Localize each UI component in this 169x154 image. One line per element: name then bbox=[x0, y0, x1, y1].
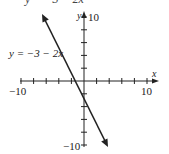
coordinate-graph: y = −3 − 2x y 10 −10 x −10 10 y = −3 − 2… bbox=[0, 0, 169, 154]
x-max-label: 10 bbox=[141, 86, 152, 97]
y-min-label: −10 bbox=[63, 141, 80, 152]
y-axis-label: y bbox=[77, 11, 81, 21]
x-axis bbox=[20, 78, 159, 84]
x-min-label: −10 bbox=[9, 86, 26, 97]
graph-canvas bbox=[0, 0, 169, 154]
line-equation-label: y = −3 − 2x bbox=[9, 48, 63, 59]
x-axis-label: x bbox=[152, 69, 156, 79]
y-axis bbox=[81, 11, 87, 147]
header-equation-fragment: y = −3 − 2x bbox=[25, 0, 84, 5]
x-axis-arrow-icon bbox=[152, 79, 159, 84]
y-max-label: 10 bbox=[88, 12, 99, 23]
